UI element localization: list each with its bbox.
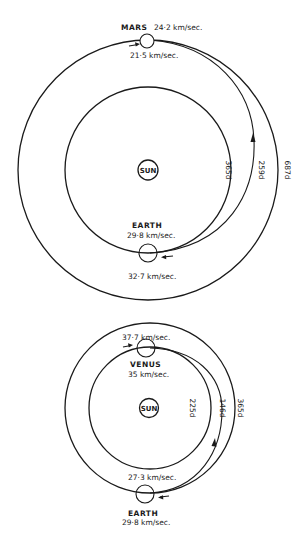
arrival-arrowhead-icon (128, 343, 133, 347)
venus-speed-label: 35 km/sec. (128, 370, 169, 379)
transfer-direction-arrow-icon (212, 438, 217, 447)
sun-label: SUN (140, 167, 157, 175)
earth-planet-icon (136, 485, 154, 503)
transfer-direction-arrow-icon (251, 133, 256, 142)
departure-arrowhead-icon (161, 255, 166, 259)
departure-arrowhead-icon (158, 495, 163, 499)
mars-name-label: MARS (121, 23, 147, 32)
mars-planet-icon (140, 34, 154, 48)
earth-departure-speed-label: 32·7 km/sec. (128, 272, 176, 281)
venus-name-label: VENUS (130, 360, 161, 369)
arrival-arrowhead-icon (135, 42, 140, 46)
sun-label: SUN (141, 405, 158, 413)
diagram-earth-venus: SUN 37·7 km/sec. VENUS 35 km/sec. 27·3 k… (65, 323, 245, 527)
earth-departure-speed-label: 27·3 km/sec. (128, 473, 176, 482)
hohmann-transfer-diagrams: SUN MARS 24·2 km/sec. 21·5 km/sec. EARTH… (0, 0, 301, 540)
mars-arrival-speed-label: 21·5 km/sec. (130, 51, 178, 60)
earth-name-label: EARTH (128, 509, 158, 518)
earth-period-label: 365d (236, 398, 245, 417)
earth-period-label: 365d (224, 160, 233, 179)
earth-name-label: EARTH (132, 221, 162, 230)
transfer-duration-label: 259d (257, 160, 266, 179)
mars-period-label: 687d (283, 160, 292, 179)
venus-arrival-speed-label: 37·7 km/sec. (122, 333, 170, 342)
earth-speed-label: 29·8 km/sec. (127, 231, 175, 240)
mars-speed-label: 24·2 km/sec. (154, 23, 202, 32)
transfer-orbit-path (150, 40, 254, 253)
venus-period-label: 225d (188, 398, 197, 417)
transfer-duration-label: 146d (218, 398, 227, 417)
earth-speed-label: 29·8 km/sec. (122, 518, 170, 527)
diagram-earth-mars: SUN MARS 24·2 km/sec. 21·5 km/sec. EARTH… (18, 23, 292, 300)
